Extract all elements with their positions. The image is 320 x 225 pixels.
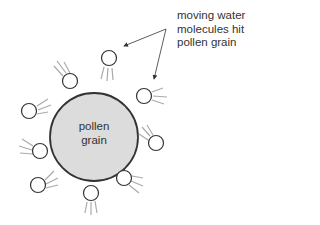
arrows xyxy=(124,29,166,79)
annotation-text: moving water molecules hit pollen grain xyxy=(177,9,245,50)
grain-label-line1: pollen xyxy=(64,120,124,134)
pollen-grain-label: pollen grain xyxy=(64,120,124,147)
grain-label-line2: grain xyxy=(64,134,124,148)
annotation-line-3: pollen grain xyxy=(177,36,245,50)
annotation-line-1: moving water xyxy=(177,9,245,23)
annotation-line-2: molecules hit xyxy=(177,23,245,37)
